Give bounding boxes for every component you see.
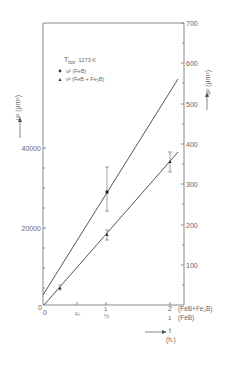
legend-condition: Tbor1273 K <box>64 56 96 65</box>
x-scale-label-2: (FeB) <box>178 314 194 322</box>
data-point-feb <box>105 167 109 211</box>
legend-label-1: u² (FeB) <box>66 68 86 74</box>
x-arrow-icon <box>162 330 167 334</box>
legend: Tbor1273 K u² (FeB) v² (FeB + Fe₂B) <box>59 56 105 82</box>
left-tick-20000: 20000 <box>22 225 42 232</box>
x-tick-2: 2 <box>168 305 172 312</box>
legend-label-2: v² (FeB + Fe₂B) <box>66 76 105 82</box>
right-tick-700: 700 <box>186 20 198 27</box>
fit-line-feb <box>43 79 178 295</box>
origin-label: 0 <box>38 304 42 311</box>
right-tick-300: 300 <box>186 181 198 188</box>
fit-line-feb-fe2b <box>44 152 178 305</box>
x-axis-unit: (h.) <box>166 336 176 344</box>
right-axis-label: u² (µm²) <box>204 70 212 95</box>
chart: 40000 20000 700 600 500 400 300 200 100 … <box>0 0 230 370</box>
legend-triangle-icon <box>59 78 62 81</box>
plot-frame <box>43 23 184 305</box>
right-tick-400: 400 <box>186 141 198 148</box>
right-tick-200: 200 <box>186 222 198 229</box>
x-tick-half-bottom: ¼ <box>75 311 81 317</box>
right-tick-500: 500 <box>186 101 198 108</box>
right-tick-600: 600 <box>186 60 198 67</box>
right-tick-100: 100 <box>186 262 198 269</box>
x-axis-label: t <box>169 327 171 334</box>
legend-circle-icon <box>59 70 62 73</box>
left-tick-40000: 40000 <box>22 145 42 152</box>
x-tick-half-second: ½ <box>104 313 109 319</box>
x-scale-label-1: (FeB+Fe₂B) <box>178 305 213 313</box>
origin-label-2: 0 <box>43 309 47 316</box>
left-axis-label: u² (µm²) <box>14 95 22 120</box>
x-tick-1-top: 1 <box>104 306 108 312</box>
x-tick-1-bottom: 1 <box>168 315 172 321</box>
